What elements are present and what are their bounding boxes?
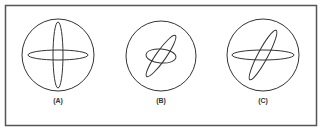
- panel-a-vertical-ellipse: [53, 22, 63, 88]
- panel-c-circle: [227, 19, 299, 91]
- figure-frame: [6, 6, 317, 126]
- figure-diagram: (A) (B) (C): [0, 0, 322, 129]
- panel-a-label: (A): [53, 97, 63, 105]
- panel-a-circle: [22, 19, 94, 91]
- panel-c-horizontal-ellipse: [232, 50, 294, 60]
- panel-a: (A): [22, 19, 94, 105]
- panel-c: (C): [227, 19, 299, 105]
- panel-b-short-ellipse: [145, 48, 176, 65]
- panel-b: (B): [126, 21, 196, 105]
- panel-b-label: (B): [156, 97, 166, 105]
- panel-b-tilted-ellipse: [143, 33, 180, 80]
- panel-a-horizontal-ellipse: [28, 50, 88, 60]
- panel-b-circle: [126, 21, 196, 91]
- panel-c-tilted-ellipse: [245, 28, 280, 82]
- panel-c-label: (C): [258, 97, 268, 105]
